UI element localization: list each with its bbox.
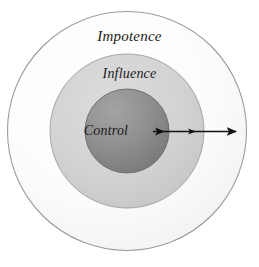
ring-label-influence: Influence (0, 66, 259, 82)
ring-label-impotence: Impotence (0, 28, 259, 45)
diagram-canvas: Impotence Influence Control (0, 0, 259, 267)
ring-label-control: Control (0, 123, 212, 139)
